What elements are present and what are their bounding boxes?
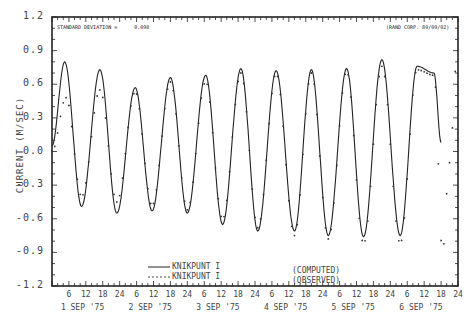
observed-point [144,162,146,164]
observed-point [232,136,234,138]
observed-point [432,74,434,76]
observed-point [358,217,360,219]
observed-point [367,220,369,222]
observed-point [127,127,129,129]
observed-point [319,155,321,157]
observed-point [381,65,383,67]
legend-dot-swatch [168,276,170,278]
observed-point [429,74,431,76]
observed-series-dots [51,65,456,244]
observed-point [330,229,332,231]
observed-point [452,127,454,129]
observed-point [77,178,79,180]
observed-point [373,143,375,145]
x-tick-label: 24 [448,290,468,299]
observed-point [285,164,287,166]
observed-point [423,71,425,73]
observed-point [268,123,270,125]
observed-point [412,94,414,96]
observed-point [113,194,115,196]
observed-point [375,104,377,106]
observed-point [296,224,298,226]
observed-point [395,220,397,222]
observed-point [229,171,231,173]
observed-point [263,194,265,196]
observed-point [322,197,324,199]
day-label: 4 SEP '75 [264,303,307,312]
observed-point [88,161,90,163]
computed-series-line [52,60,441,237]
y-tick-label: 1.2 [0,10,44,21]
day-label: 1 SEP '75 [61,303,104,312]
observed-point [327,238,329,240]
legend-kind-observed: (OBSERVED) [292,276,340,285]
observed-point [246,111,248,113]
y-tick-label: 0.9 [0,44,44,55]
observed-point [454,71,456,73]
std-dev-value: 0.098 [134,24,149,30]
observed-point [223,216,225,218]
observed-point [147,188,149,190]
observed-point [378,76,380,78]
observed-point [178,145,180,147]
credit-label: (RAND CORP. 80/09/02) [386,24,449,30]
observed-point [133,93,135,95]
legend-dot-swatch [160,276,162,278]
observed-point [426,72,428,74]
observed-point [175,113,177,115]
observed-point [389,143,391,145]
observed-point [313,83,315,85]
observed-point [333,202,335,204]
observed-point [316,114,318,116]
observed-point [51,151,53,153]
observed-point [206,83,208,85]
observed-point [398,240,400,242]
day-label: 2 SEP '75 [129,303,172,312]
observed-point [404,217,406,219]
day-label: 5 SEP '75 [332,303,375,312]
observed-point [364,240,366,242]
observed-point [119,195,121,197]
observed-point [311,72,313,74]
observed-point [220,216,222,218]
observed-point [418,69,420,71]
y-tick-label: -0.6 [0,212,44,223]
observed-point [260,218,262,220]
observed-point [74,153,76,155]
observed-point [150,203,152,205]
observed-point [139,108,141,110]
observed-point [406,178,408,180]
observed-point [449,162,451,164]
day-label: 3 SEP '75 [196,303,239,312]
observed-point [249,150,251,152]
observed-point [392,185,394,187]
observed-point [54,146,56,148]
observed-point [122,177,124,179]
observed-point [370,185,372,187]
observed-point [409,133,411,135]
observed-point [277,76,279,78]
observed-point [136,93,138,95]
observed-point [344,73,346,75]
observed-point [164,108,166,110]
legend-dot-swatch [148,276,150,278]
observed-point [443,243,445,245]
observed-point [68,105,70,107]
current-chart [0,0,476,324]
observed-point [57,132,59,134]
observed-point [62,102,64,104]
observed-point [124,153,126,155]
observed-point [108,145,110,147]
observed-point [440,240,442,242]
legend-kind-computed: (COMPUTED) [292,266,340,275]
observed-point [186,209,188,211]
std-dev-text: STANDARD DEVIATION = [57,24,117,30]
observed-point [184,200,186,202]
observed-point [387,104,389,106]
plot-frame [52,17,458,286]
observed-point [350,96,352,98]
observed-point [288,200,290,202]
observed-point [203,83,205,85]
observed-point [401,240,403,242]
observed-point [93,112,95,114]
